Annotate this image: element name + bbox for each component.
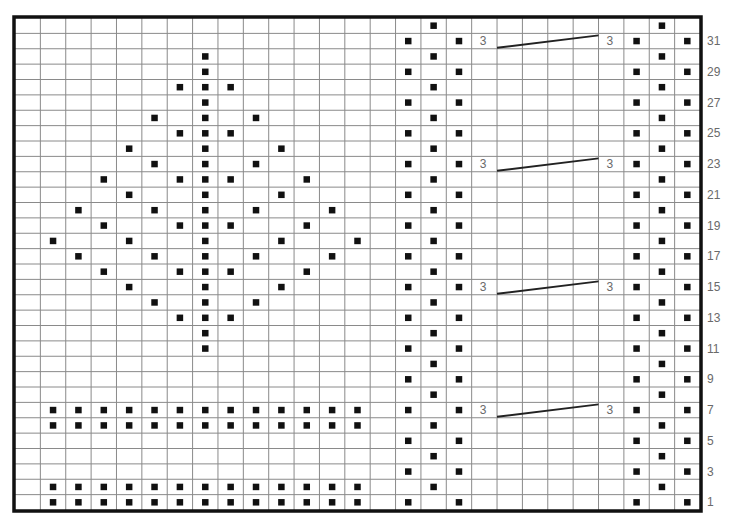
stitch-dot xyxy=(151,422,158,429)
row-number-label: 3 xyxy=(707,465,714,479)
stitch-dot xyxy=(684,69,691,76)
stitch-dot xyxy=(659,145,666,152)
stitch-dot xyxy=(126,238,132,245)
stitch-dot xyxy=(633,69,640,76)
stitch-dot xyxy=(659,84,666,91)
stitch-dot xyxy=(177,484,184,491)
stitch-dot xyxy=(202,99,209,106)
stitch-dot xyxy=(684,253,691,260)
stitch-dot xyxy=(633,99,640,106)
stitch-dot xyxy=(659,484,666,491)
row-number-label: 23 xyxy=(707,157,720,171)
stitch-dot xyxy=(633,192,640,199)
stitch-dot xyxy=(430,484,437,491)
row-number-label: 13 xyxy=(707,311,720,325)
stitch-dot xyxy=(227,499,234,506)
row-number-label: 7 xyxy=(707,403,714,417)
stitch-dot xyxy=(304,499,311,506)
stitch-dot xyxy=(253,299,260,306)
stitch-dot xyxy=(278,422,285,429)
stitch-dot xyxy=(151,407,158,414)
stitch-dot xyxy=(430,207,437,214)
stitch-dot xyxy=(354,499,361,506)
stitch-dot xyxy=(202,253,209,260)
stitch-dot xyxy=(304,484,311,491)
stitch-dot xyxy=(633,376,640,383)
stitch-dot xyxy=(456,468,463,475)
stitch-dot xyxy=(633,407,640,414)
stitch-dot xyxy=(684,284,691,291)
stitch-dot xyxy=(405,253,412,260)
stitch-dot xyxy=(202,284,209,291)
stitch-dot xyxy=(304,176,311,183)
stitch-dot xyxy=(202,69,209,76)
stitch-dot xyxy=(50,407,57,414)
stitch-dot xyxy=(405,69,412,76)
stitch-dot xyxy=(278,192,285,199)
stitch-dot xyxy=(430,299,437,306)
stitch-dot xyxy=(151,484,158,491)
stitch-dot xyxy=(329,422,336,429)
stitch-dot xyxy=(202,115,209,122)
stitch-dot xyxy=(227,422,234,429)
stitch-dot xyxy=(177,268,184,275)
stitch-dot xyxy=(659,238,666,245)
stitch-dot xyxy=(75,422,82,429)
stitch-dot xyxy=(177,130,184,137)
stitch-dot xyxy=(405,38,412,45)
stitch-dot xyxy=(202,499,209,506)
stitch-dot xyxy=(101,407,108,414)
stitch-dot xyxy=(202,192,209,199)
row-number-label: 25 xyxy=(707,126,720,140)
stitch-dot xyxy=(253,207,260,214)
stitch-dot xyxy=(633,468,640,475)
stitch-dot xyxy=(405,468,412,475)
stitch-dot xyxy=(151,207,158,214)
stitch-dot xyxy=(456,69,463,76)
stitch-dot xyxy=(227,222,234,229)
stitch-dot xyxy=(456,222,463,229)
stitch-dot xyxy=(633,284,640,291)
stitch-dot xyxy=(456,99,463,106)
stitch-dot xyxy=(430,453,437,460)
stitch-dot xyxy=(684,499,691,506)
stitch-dot xyxy=(253,407,260,414)
stitch-dot xyxy=(430,22,437,29)
stitch-dot xyxy=(684,130,691,137)
stitch-dot xyxy=(684,376,691,383)
stitch-dot xyxy=(684,468,691,475)
stitch-dot xyxy=(684,161,691,168)
stitch-dot xyxy=(659,176,666,183)
stitch-dot xyxy=(405,192,412,199)
stitch-dot xyxy=(304,268,311,275)
stitch-dot xyxy=(202,422,209,429)
row-number-label: 29 xyxy=(707,65,720,79)
stitch-dot xyxy=(202,176,209,183)
stitch-dot xyxy=(177,222,184,229)
chart-grid xyxy=(0,0,733,520)
stitch-dot xyxy=(101,222,108,229)
stitch-dot xyxy=(253,253,260,260)
stitch-dot xyxy=(50,484,57,491)
stitch-dot xyxy=(304,222,311,229)
stitch-dot xyxy=(354,422,361,429)
stitch-dot xyxy=(430,176,437,183)
stitch-dot xyxy=(456,130,463,137)
stitch-dot xyxy=(253,161,260,168)
stitch-dot xyxy=(253,115,260,122)
stitch-dot xyxy=(430,391,437,398)
stitch-dot xyxy=(659,361,666,368)
stitch-dot xyxy=(456,499,463,506)
stitch-dot xyxy=(278,145,285,152)
cable-stitch-count: 3 xyxy=(480,280,487,294)
cable-stitch-count: 3 xyxy=(480,157,487,171)
stitch-dot xyxy=(126,284,132,291)
stitch-dot xyxy=(354,484,361,491)
stitch-dot xyxy=(202,207,209,214)
stitch-dot xyxy=(253,422,260,429)
stitch-dot xyxy=(227,315,234,322)
stitch-dot xyxy=(354,407,361,414)
stitch-dot xyxy=(202,161,209,168)
stitch-dot xyxy=(75,253,82,260)
stitch-dot xyxy=(75,484,82,491)
